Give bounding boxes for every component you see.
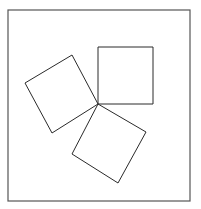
diagram-canvas (0, 0, 201, 209)
upper-right-square (98, 47, 153, 104)
outer-frame (8, 10, 190, 201)
left-square (25, 55, 98, 133)
lower-square (72, 104, 146, 183)
